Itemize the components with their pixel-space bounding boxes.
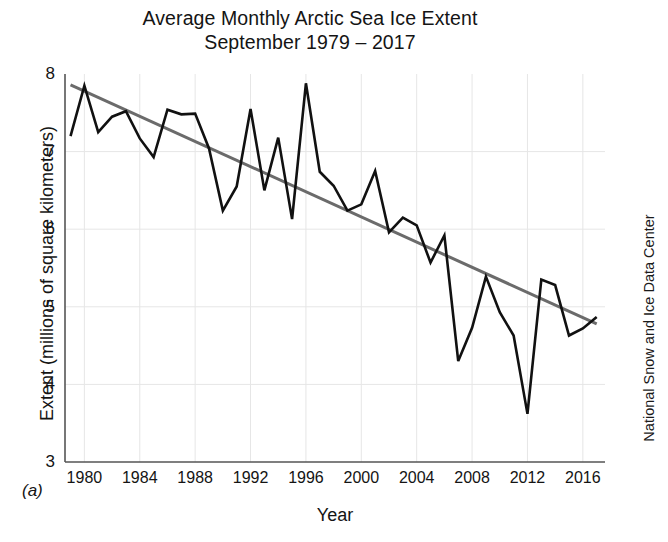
linear-trend-line [71, 85, 597, 324]
figure-arctic-sea-ice-extent: Average Monthly Arctic Sea Ice Extent Se… [0, 0, 668, 542]
plot-area [0, 0, 668, 542]
data-series-line [71, 83, 597, 414]
sea-ice-extent-line [71, 83, 597, 414]
trend-line [71, 85, 597, 324]
axis-lines [65, 74, 605, 462]
grid-lines [65, 74, 605, 462]
